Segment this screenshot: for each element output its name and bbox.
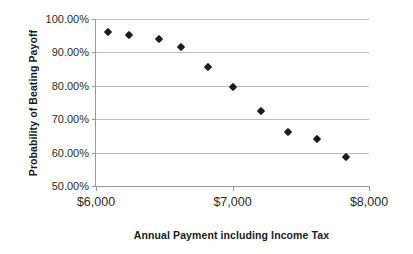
gridline-horizontal bbox=[96, 52, 369, 53]
gridline-horizontal bbox=[96, 19, 369, 20]
y-tick-mark bbox=[92, 119, 96, 120]
data-point bbox=[104, 28, 112, 36]
plot-area: 50.00%60.00%70.00%80.00%90.00%100.00%$6,… bbox=[95, 19, 368, 186]
y-tick-label: 100.00% bbox=[46, 13, 89, 25]
gridline-horizontal bbox=[96, 153, 369, 154]
data-point bbox=[284, 127, 292, 135]
gridline-horizontal bbox=[96, 119, 369, 120]
data-point bbox=[228, 83, 236, 91]
x-axis-title: Annual Payment including Income Tax bbox=[95, 229, 368, 241]
x-tick-mark bbox=[96, 186, 97, 191]
y-tick-mark bbox=[92, 19, 96, 20]
data-point bbox=[155, 35, 163, 43]
data-point bbox=[342, 152, 350, 160]
y-tick-label: 90.00% bbox=[52, 46, 89, 58]
x-tick-label: $6,000 bbox=[77, 195, 115, 209]
y-tick-label: 70.00% bbox=[52, 113, 89, 125]
x-tick-mark bbox=[369, 186, 370, 191]
y-axis-title: Probability of Beating Payoff bbox=[22, 8, 44, 198]
y-tick-label: 80.00% bbox=[52, 80, 89, 92]
data-point bbox=[257, 107, 265, 115]
scatter-chart: Probability of Beating Payoff 50.00%60.0… bbox=[0, 0, 413, 254]
y-tick-mark bbox=[92, 86, 96, 87]
y-tick-label: 60.00% bbox=[52, 147, 89, 159]
data-point bbox=[204, 63, 212, 71]
x-tick-label: $7,000 bbox=[213, 195, 251, 209]
x-tick-mark bbox=[233, 186, 234, 191]
y-tick-label: 50.00% bbox=[52, 180, 89, 192]
x-tick-label: $8,000 bbox=[350, 195, 388, 209]
y-tick-mark bbox=[92, 52, 96, 53]
y-tick-mark bbox=[92, 153, 96, 154]
data-point bbox=[313, 135, 321, 143]
data-point bbox=[125, 30, 133, 38]
data-point bbox=[177, 43, 185, 51]
